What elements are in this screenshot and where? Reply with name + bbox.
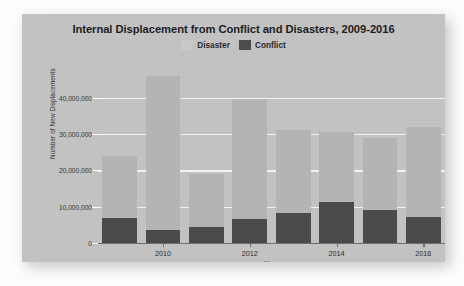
plot-area [98,74,445,243]
bar-segment-disaster[interactable] [363,138,398,210]
bar-segment-disaster[interactable] [189,174,224,227]
y-axis-label: Number of New Displacements [49,68,56,159]
x-tick-mark [163,243,164,247]
bar-segment-conflict[interactable] [319,202,354,243]
bar-segment-disaster[interactable] [276,130,311,213]
bar-segment-conflict[interactable] [276,213,311,243]
x-tick-mark [423,243,424,247]
x-axis-line [98,243,445,244]
y-tick-label: 40,000,000 [40,94,92,101]
bar-segment-disaster[interactable] [146,76,181,230]
bar-group[interactable] [189,174,224,243]
x-axis-label: Year [98,259,445,262]
legend-item-disaster[interactable]: Disaster [181,40,230,50]
bar-group[interactable] [102,156,137,243]
x-tick-mark [250,243,251,247]
bar-segment-disaster[interactable] [232,99,267,219]
bar-group[interactable] [276,130,311,243]
y-tick-label: 0 [40,240,92,247]
bar-group[interactable] [232,99,267,243]
chart-title: Internal Displacement from Conflict and … [22,23,445,35]
bar-group[interactable] [319,132,354,243]
bar-segment-conflict[interactable] [363,210,398,243]
bar-segment-conflict[interactable] [406,217,441,243]
bar-segment-conflict[interactable] [232,219,267,243]
chart-legend: Disaster Conflict [22,40,445,50]
legend-label-conflict: Conflict [255,40,286,50]
legend-swatch-conflict-icon [239,40,251,50]
legend-swatch-disaster-icon [181,40,193,50]
bar-segment-conflict[interactable] [146,230,181,243]
y-tick-label: 10,000,000 [40,203,92,210]
bar-group[interactable] [146,76,181,243]
y-tick-label: 20,000,000 [40,167,92,174]
bar-segment-disaster[interactable] [406,127,441,217]
x-tick-label: 2014 [315,249,359,258]
legend-item-conflict[interactable]: Conflict [239,40,286,50]
chart-panel: Internal Displacement from Conflict and … [22,14,445,262]
bar-group[interactable] [363,138,398,243]
x-tick-label: 2012 [228,249,272,258]
chart-figure: Internal Displacement from Conflict and … [0,0,464,286]
bar-segment-conflict[interactable] [102,218,137,243]
y-tick-label: 30,000,000 [40,130,92,137]
x-tick-mark [337,243,338,247]
bar-group[interactable] [406,127,441,243]
bar-series-container [98,74,445,243]
x-tick-label: 2016 [401,249,445,258]
bar-segment-disaster[interactable] [319,132,354,202]
legend-label-disaster: Disaster [197,40,230,50]
bar-segment-conflict[interactable] [189,227,224,243]
x-tick-label: 2010 [141,249,185,258]
bar-segment-disaster[interactable] [102,156,137,218]
